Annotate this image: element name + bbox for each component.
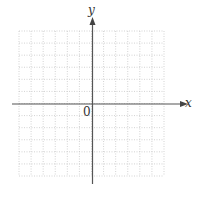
x-axis-label: x <box>185 97 192 109</box>
y-axis-label: y <box>88 4 95 16</box>
x-axis <box>12 101 188 107</box>
y-axis-arrow-icon <box>90 17 96 25</box>
coordinate-plane <box>0 0 202 198</box>
origin-label: 0 <box>83 106 91 118</box>
y-axis <box>90 17 96 184</box>
